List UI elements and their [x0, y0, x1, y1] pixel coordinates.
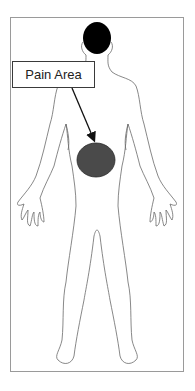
pain-area-label-text: Pain Area: [25, 67, 81, 82]
pain-area-marker: [77, 143, 115, 177]
pain-area-label: Pain Area: [12, 61, 95, 88]
head: [82, 22, 113, 55]
body-outline-figure: [0, 0, 195, 391]
body-outline: [17, 55, 176, 363]
pointer-arrow: [72, 88, 94, 140]
